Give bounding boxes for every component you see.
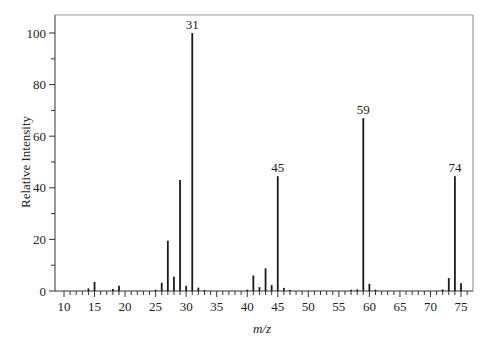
mass-spectrum-chart: 020406080100 101520253035404550556065707…: [0, 0, 492, 351]
x-tick-label: 70: [424, 299, 437, 314]
y-tick-label: 80: [33, 77, 46, 92]
peak-label-31: 31: [186, 17, 199, 32]
y-tick-label: 100: [27, 26, 47, 41]
x-tick-label: 20: [119, 299, 132, 314]
x-tick-label: 10: [58, 299, 71, 314]
y-axis-label: Relative Intensity: [18, 115, 33, 208]
x-tick-label: 30: [180, 299, 193, 314]
plot-frame: [55, 15, 473, 291]
x-tick-label: 35: [210, 299, 223, 314]
y-tick-label: 40: [33, 180, 46, 195]
x-tick-label: 50: [302, 299, 315, 314]
peak-label-59: 59: [357, 102, 370, 117]
y-tick-label: 0: [40, 284, 47, 299]
x-tick-label: 15: [88, 299, 101, 314]
peak-labels: 31455974: [186, 17, 462, 175]
peak-label-45: 45: [271, 160, 284, 175]
x-tick-label: 25: [149, 299, 162, 314]
x-axis-label: m/z: [253, 321, 271, 336]
x-axis: 1015202530354045505560657075: [55, 291, 473, 314]
x-tick-label: 45: [271, 299, 284, 314]
x-tick-label: 40: [241, 299, 254, 314]
chart-canvas: 020406080100 101520253035404550556065707…: [0, 0, 492, 351]
x-tick-label: 60: [363, 299, 376, 314]
peak-label-74: 74: [448, 160, 462, 175]
x-tick-label: 55: [332, 299, 345, 314]
x-tick-label: 65: [393, 299, 406, 314]
y-tick-label: 20: [33, 232, 46, 247]
y-tick-label: 60: [33, 129, 46, 144]
x-tick-label: 75: [455, 299, 468, 314]
